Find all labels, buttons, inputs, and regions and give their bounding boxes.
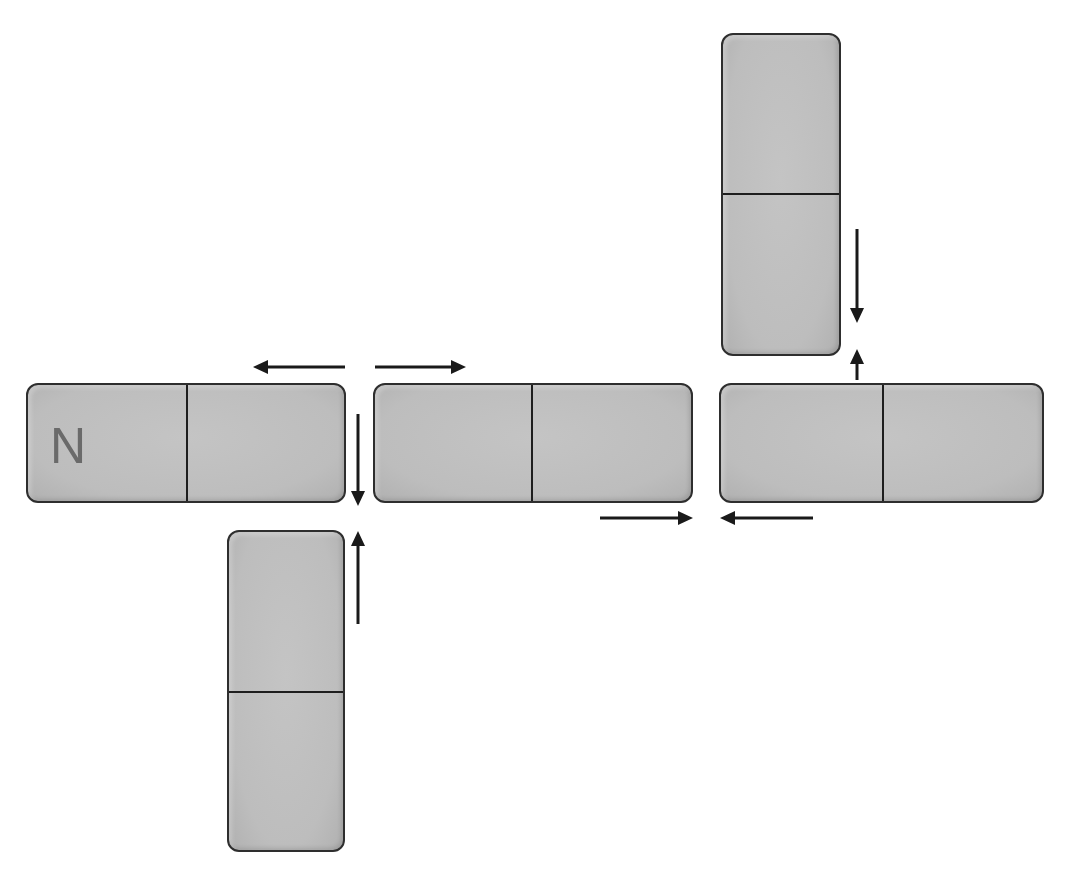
arrow-right-icon xyxy=(375,360,466,374)
arrows-layer xyxy=(0,0,1065,881)
arrow-down-icon xyxy=(850,229,864,323)
arrow-down-icon xyxy=(351,414,365,506)
arrow-up-icon xyxy=(351,531,365,624)
arrow-left-icon xyxy=(253,360,345,374)
arrow-left-icon xyxy=(720,511,813,525)
arrow-up-icon xyxy=(850,349,864,380)
arrow-right-icon xyxy=(600,511,693,525)
diagram-canvas: N xyxy=(0,0,1065,881)
